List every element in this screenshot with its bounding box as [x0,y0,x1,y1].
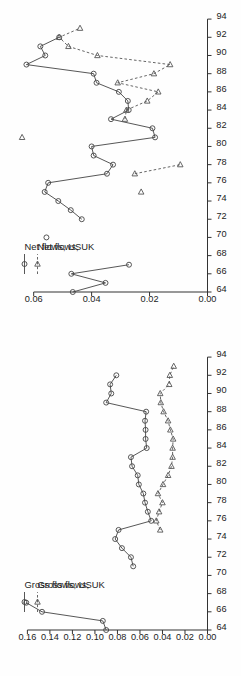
series-uk [19,25,183,194]
x-tick-label: 88 [216,66,226,76]
series-us [23,373,153,633]
y-tick-label: 0.04 [82,294,100,304]
data-point-triangle [156,509,162,514]
data-point-triangle [157,390,163,395]
legend-entry: Gross flows, UK [34,579,105,612]
x-tick-label: 66 [216,604,226,614]
data-point-triangle [138,189,144,194]
x-tick-label: 72 [216,549,226,559]
x-tick-label: 68 [216,586,226,596]
data-point-triangle [169,445,175,450]
data-point-triangle [158,400,164,405]
x-tick-label: 86 [216,422,226,432]
series-path [106,375,151,566]
x-tick-label: 76 [216,175,226,185]
series-path [71,265,129,292]
x-tick-label: 74 [216,193,226,203]
y-tick-label: 0.02 [176,632,194,642]
panel-net-flows: 646668707274767880828486889092940.000.02… [0,0,241,338]
x-tick-label: 78 [216,495,226,505]
data-point-triangle [34,599,40,604]
data-point-circle [22,262,27,267]
x-tick-label: 64 [216,622,226,632]
series-uk [153,363,176,532]
data-point-triangle [122,116,128,121]
x-tick-label: 72 [216,211,226,221]
y-tick-label: 0.02 [140,294,158,304]
data-point-triangle [114,80,120,85]
x-tick-label: 82 [216,458,226,468]
y-tick-label: 0.14 [40,632,58,642]
data-point-triangle [144,98,150,103]
series-path [26,37,155,219]
x-tick-label: 66 [216,266,226,276]
data-point-triangle [77,25,83,30]
gross-flows-plot: 646668707274767880828486889092940.000.02… [0,338,241,676]
net-flows-plot: 646668707274767880828486889092940.000.02… [0,0,241,338]
legend-label: Gross flows, UK [37,579,105,590]
y-tick-label: 0.08 [108,632,126,642]
x-tick-label: 84 [216,440,226,450]
y-tick-label: 0.10 [85,632,103,642]
data-point-triangle [166,381,172,386]
x-tick-label: 94 [216,349,226,359]
data-point-circle [128,455,133,460]
data-point-triangle [151,71,157,76]
data-point-circle [142,418,147,423]
data-point-circle [43,235,48,240]
y-tick-label: 0.06 [131,632,149,642]
x-tick-label: 78 [216,157,226,167]
data-point-circle [112,537,117,542]
y-tick-label: 0.16 [18,632,36,642]
legend-label: Net flows, UK [37,241,95,252]
y-tick-label: 0.00 [198,294,216,304]
data-point-triangle [155,491,161,496]
x-tick-label: 84 [216,102,226,112]
series-path [134,165,179,174]
x-tick-label: 70 [216,567,226,577]
x-tick-label: 76 [216,513,226,523]
x-tick-label: 90 [216,47,226,57]
data-point-circle [143,436,148,441]
y-tick-label: 0.00 [198,632,216,642]
x-tick-label: 92 [216,29,226,39]
data-point-triangle [19,134,25,139]
x-tick-label: 68 [216,248,226,258]
data-point-triangle [132,171,138,176]
data-point-circle [42,189,47,194]
series-us [23,35,157,295]
figure-root: 646668707274767880828486889092940.000.02… [0,0,241,676]
x-tick-label: 80 [216,476,226,486]
y-tick-label: 0.06 [24,294,42,304]
panel-gross-flows: 646668707274767880828486889092940.000.02… [0,338,241,676]
x-tick-label: 90 [216,385,226,395]
legend-entry: Net flows, UK [34,241,94,274]
x-tick-label: 82 [216,120,226,130]
data-point-circle [107,382,112,387]
x-tick-label: 88 [216,404,226,414]
x-tick-label: 80 [216,138,226,148]
x-tick-label: 94 [216,11,226,21]
y-tick-label: 0.04 [153,632,171,642]
data-point-triangle [177,162,183,167]
x-tick-label: 74 [216,531,226,541]
data-point-triangle [34,261,40,266]
y-tick-label: 0.12 [63,632,81,642]
x-tick-label: 70 [216,229,226,239]
x-tick-label: 64 [216,284,226,294]
series-path [59,28,170,119]
x-tick-label: 92 [216,367,226,377]
x-tick-label: 86 [216,84,226,94]
